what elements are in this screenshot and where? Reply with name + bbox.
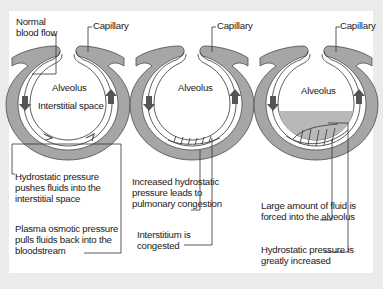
- label-alveolus: Alveolus: [52, 82, 87, 93]
- down-arrow-icon: [19, 96, 31, 111]
- label-alveolus: Alveolus: [178, 82, 213, 93]
- up-arrow-icon: [105, 89, 117, 104]
- label-capillary: Capillary: [340, 20, 376, 31]
- label-capillary: Capillary: [93, 20, 129, 31]
- note-plasma-osmotic: Plasma osmotic pressure pulls fluids bac…: [15, 223, 118, 256]
- fluid-fill: [279, 111, 353, 140]
- alveolus-normal: [6, 27, 130, 253]
- note-hydrostatic-pushes: Hydrostatic pressure pushes fluids into …: [15, 171, 101, 204]
- note-interstitium-congested: Interstitium is congested: [137, 229, 191, 251]
- alveolus-congestion: [130, 27, 254, 245]
- note-large-fluid: Large amount of fluid is forced into the…: [261, 200, 356, 222]
- note-greatly-increased: Hydrostatic pressure is greatly increase…: [261, 244, 354, 266]
- note-increased-hydrostatic: Increased hydrostatic pressure leads to …: [132, 176, 222, 209]
- label-interstitial-space: Interstitial space: [38, 100, 104, 111]
- label-alveolus: Alveolus: [301, 85, 336, 96]
- label-capillary: Capillary: [217, 20, 253, 31]
- label-normal-blood-flow: Normal blood flow: [16, 16, 57, 38]
